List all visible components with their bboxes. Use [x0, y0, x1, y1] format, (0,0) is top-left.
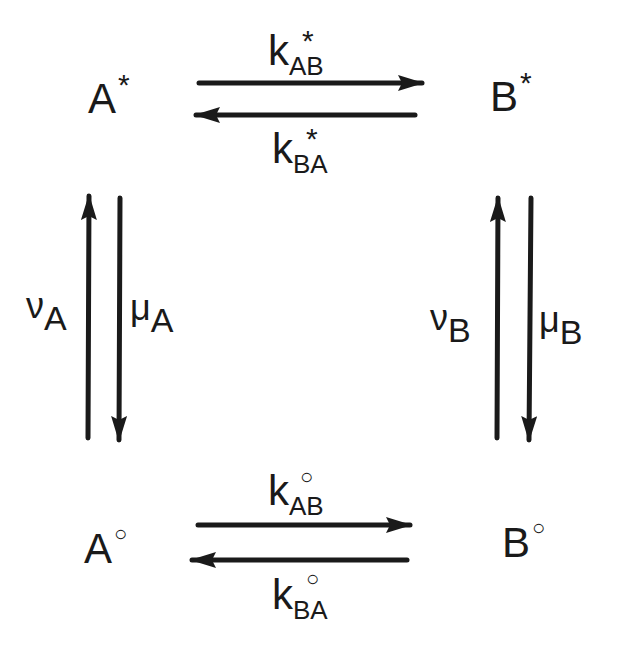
rate-base: μ	[539, 299, 560, 340]
rate-subscript: B	[448, 311, 471, 349]
excited-mark: *	[118, 68, 130, 101]
rate-base: k	[268, 467, 289, 514]
rate-subscript: BA	[293, 595, 328, 625]
rate-mu-a: μA	[130, 290, 173, 326]
state-base: B	[502, 519, 530, 566]
rate-base: k	[272, 571, 293, 618]
rate-nu-b: νB	[430, 300, 471, 336]
ground-mark: ○	[532, 515, 545, 540]
rate-base: ν	[430, 297, 448, 338]
rate-subscript: AB	[289, 491, 324, 521]
state-a-ground: A○	[84, 528, 127, 570]
ground-mark: ○	[114, 521, 127, 546]
rate-k-ab-ground: k○AB	[268, 470, 324, 512]
rate-subscript: BA	[293, 149, 328, 179]
rate-k-ab-star: k*AB	[268, 30, 324, 72]
rate-base: k	[272, 125, 293, 172]
ground-mark: ○	[300, 466, 313, 488]
state-b-star: B*	[490, 76, 532, 118]
arrow-a-star-to-a-ground	[119, 198, 120, 440]
rate-subscript: AB	[289, 51, 324, 81]
state-base: A	[84, 525, 112, 572]
arrow-a-ground-to-a-star	[88, 196, 89, 438]
rate-k-ba-ground: k○BA	[272, 574, 328, 616]
state-base: A	[88, 75, 116, 122]
state-b-ground: B○	[502, 522, 545, 564]
rate-base: k	[268, 27, 289, 74]
rate-subscript: A	[44, 299, 67, 337]
state-base: B	[490, 73, 518, 120]
ground-mark: ○	[306, 568, 319, 590]
state-a-star: A*	[88, 78, 130, 120]
rate-nu-a: νA	[26, 288, 67, 324]
arrow-b-star-to-b-ground	[529, 198, 531, 440]
arrow-b-ground-to-b-star	[497, 198, 498, 438]
rate-mu-b: μB	[539, 302, 582, 338]
rate-subscript: B	[560, 313, 583, 351]
excited-mark: *	[520, 66, 532, 99]
rate-base: ν	[26, 285, 44, 326]
rate-subscript: A	[151, 301, 174, 339]
rate-base: μ	[130, 287, 151, 328]
rate-k-ba-star: k*BA	[272, 128, 328, 170]
